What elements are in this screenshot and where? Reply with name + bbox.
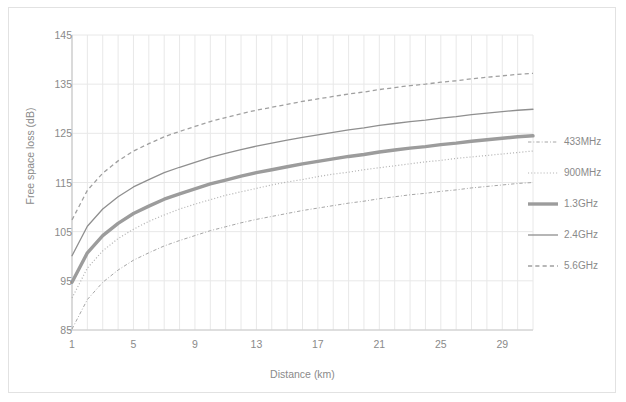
x-axis-tick-label: 25 <box>426 338 456 350</box>
legend-item-433mhz[interactable]: 433MHz <box>528 126 620 157</box>
chart-legend: 433MHz900MHz1.3GHz2.4GHz5.6GHz <box>528 126 620 281</box>
legend-label: 900MHz <box>564 167 601 178</box>
gridlines <box>72 35 533 330</box>
legend-label: 5.6GHz <box>564 260 598 271</box>
x-axis-title: Distance (km) <box>70 368 535 380</box>
x-axis-tick-label: 17 <box>303 338 333 350</box>
chart-plot-area: 1451351251151059585 1591317212529 Free s… <box>0 0 626 402</box>
x-axis-tick-label: 29 <box>487 338 517 350</box>
x-axis-tick-label: 13 <box>241 338 271 350</box>
legend-item-2-4ghz[interactable]: 2.4GHz <box>528 219 620 250</box>
legend-swatch-icon <box>528 167 558 179</box>
legend-label: 433MHz <box>564 136 601 147</box>
x-axis-tick-label: 1 <box>57 338 87 350</box>
y-axis-tick-label: 125 <box>46 127 72 139</box>
legend-swatch-icon <box>528 229 558 241</box>
y-axis-tick-label: 85 <box>46 324 72 336</box>
x-axis-tick-label: 5 <box>118 338 148 350</box>
y-axis-tick-label: 135 <box>46 78 72 90</box>
legend-item-1-3ghz[interactable]: 1.3GHz <box>528 188 620 219</box>
legend-swatch-icon <box>528 136 558 148</box>
x-axis-tick-label: 21 <box>364 338 394 350</box>
legend-item-5-6ghz[interactable]: 5.6GHz <box>528 250 620 281</box>
x-axis-tick-label: 9 <box>180 338 210 350</box>
y-axis-tick-label: 95 <box>46 275 72 287</box>
legend-label: 2.4GHz <box>564 229 598 240</box>
legend-swatch-icon <box>528 260 558 272</box>
y-axis-tick-label: 115 <box>46 177 72 189</box>
legend-swatch-icon <box>528 198 558 210</box>
legend-label: 1.3GHz <box>564 198 598 209</box>
y-axis-tick-label: 105 <box>46 226 72 238</box>
y-axis-title: Free space loss (dB) <box>24 86 36 226</box>
legend-item-900mhz[interactable]: 900MHz <box>528 157 620 188</box>
y-axis-tick-label: 145 <box>46 29 72 41</box>
